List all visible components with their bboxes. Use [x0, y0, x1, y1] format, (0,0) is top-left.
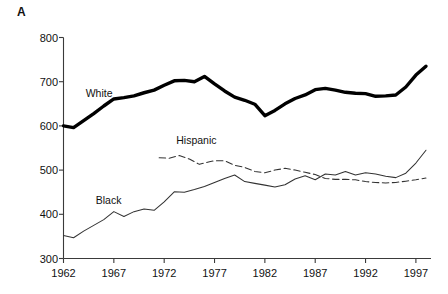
- y-tick-label: 800: [20, 32, 58, 44]
- y-tick-label: 500: [20, 164, 58, 176]
- series-label-black: Black: [96, 194, 122, 206]
- x-tick-label: 1997: [404, 267, 428, 279]
- x-tick-label: 1962: [51, 267, 75, 279]
- x-tick-label: 1967: [102, 267, 126, 279]
- series-label-hispanic: Hispanic: [176, 134, 216, 146]
- series-label-white: White: [86, 87, 113, 99]
- x-tick-label: 1982: [253, 267, 277, 279]
- y-tick-label: 300: [20, 253, 58, 265]
- series-line-hispanic: [159, 156, 426, 183]
- x-tick-label: 1972: [152, 267, 176, 279]
- x-tick-label: 1992: [353, 267, 377, 279]
- x-tick-label: 1977: [202, 267, 226, 279]
- y-tick-label: 700: [20, 76, 58, 88]
- series-line-white: [64, 66, 426, 127]
- x-tick-label: 1987: [303, 267, 327, 279]
- y-tick-label: 600: [20, 120, 58, 132]
- y-tick-label: 400: [20, 208, 58, 220]
- chart-figure: A 30040050060070080019621967197219771982…: [0, 0, 448, 294]
- line-chart: [0, 0, 448, 294]
